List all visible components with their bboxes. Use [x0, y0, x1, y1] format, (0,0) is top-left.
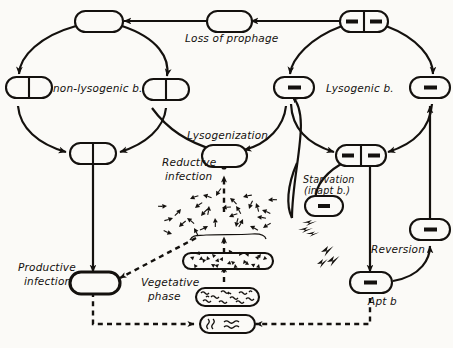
edge-lysogenization [244, 106, 286, 150]
lysogenic-top-dividing-cell [340, 11, 388, 32]
label-productive-infection-line2: infection [24, 275, 71, 287]
non-lysogenic-top-cell [75, 11, 123, 32]
label-reversion: Reversion [371, 243, 425, 255]
label-productive-infection-line1: Productive [18, 261, 76, 273]
diagram-canvas: Loss of prophage non-lysogenic b. Lysoge… [0, 0, 453, 348]
label-starvation-line1: Starvation [303, 174, 355, 185]
label-lysogenic: Lysogenic b. [326, 82, 394, 94]
lysogenic-right-cell [410, 77, 450, 98]
phage-filled-lysing-cell [183, 250, 273, 269]
label-reductive-infection-line2: infection [165, 170, 212, 182]
label-reductive-infection-line1: Reductive [162, 156, 216, 168]
productive-infection-cell [70, 272, 120, 294]
inapt-bacterium-cell [305, 196, 343, 216]
non-lysogenic-left-dividing-cell [6, 77, 52, 98]
label-lysogenization: Lysogenization [187, 129, 268, 141]
label-vegetative-phase-line2: phase [147, 290, 181, 302]
label-loss-of-prophage: Loss of prophage [185, 32, 279, 44]
lysogeny-diagram: Loss of prophage non-lysogenic b. Lysoge… [0, 0, 453, 348]
lysogenic-left-cell [274, 77, 314, 98]
label-apt-b: Apt b [367, 295, 397, 307]
lightning-bolt-inapt-icon [298, 220, 319, 237]
non-lysogenic-right-dividing-cell [143, 79, 189, 100]
lysogenic-bottom-dividing-cell [336, 145, 386, 166]
lightning-bolt-apt-icon [317, 246, 340, 268]
reversion-intermediate-cell [410, 219, 450, 240]
non-lysogenic-bottom-dividing-cell [70, 143, 116, 164]
apt-bacterium-cell [350, 272, 392, 293]
label-vegetative-phase-line1: Vegetative [141, 276, 199, 288]
lysed-cell-remnant [190, 234, 266, 240]
phage-burst-cluster [158, 187, 277, 237]
label-non-lysogenic: non-lysogenic b. [53, 82, 143, 94]
loss-of-prophage-transit-cell [207, 11, 252, 32]
infecting-phage-dna-cell [200, 315, 255, 333]
edge-apt-recycle [256, 298, 370, 324]
edge-reductive-infection [221, 164, 226, 212]
label-starvation-line2: (inapt b.) [304, 185, 350, 196]
vegetative-phase-cell [196, 288, 259, 306]
